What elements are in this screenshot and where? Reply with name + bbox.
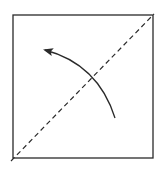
- diagram-canvas: [0, 0, 165, 170]
- fold-diagram: [0, 0, 165, 170]
